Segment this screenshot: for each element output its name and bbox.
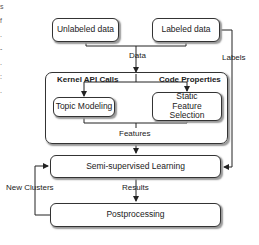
postprocessing-label: Postprocessing: [106, 210, 164, 220]
results-edge-label: Results: [122, 183, 149, 192]
unlabeled-data-node: Unlabeled data: [52, 18, 119, 42]
features-edge-label: Features: [119, 129, 151, 138]
data-edge-label: Data: [129, 51, 146, 60]
semi-supervised-learning-node: Semi-supervised Learning: [50, 155, 221, 178]
static-feature-selection-label: Static Feature Selection: [161, 92, 213, 121]
labeled-data-node: Labeled data: [152, 18, 220, 42]
labels-edge-label: Labels: [222, 53, 246, 62]
static-feature-selection-node: Static Feature Selection: [152, 92, 222, 121]
semi-supervised-learning-label: Semi-supervised Learning: [86, 162, 185, 172]
postprocessing-node: Postprocessing: [50, 203, 221, 227]
code-properties-label: Code Properties: [159, 75, 221, 84]
new-clusters-edge-label: New Clusters: [6, 183, 54, 192]
unlabeled-data-label: Unlabeled data: [57, 25, 114, 35]
labeled-data-label: Labeled data: [161, 25, 210, 35]
topic-modeling-label: Topic Modeling: [56, 102, 113, 112]
topic-modeling-node: Topic Modeling: [53, 97, 115, 117]
kernel-api-calls-label: Kernel API Calls: [57, 75, 119, 84]
